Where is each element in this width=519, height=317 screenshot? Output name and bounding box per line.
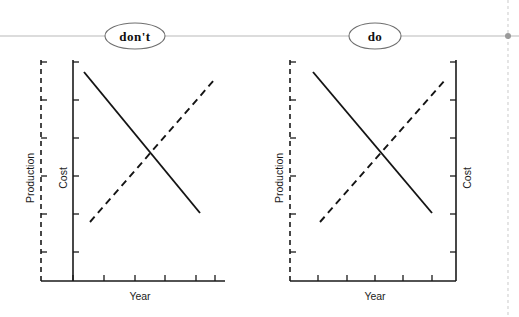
series-cost-series-dont-panel: [84, 72, 200, 213]
figure-canvas: don'tdoYearProductionCostYearProductionC…: [0, 0, 519, 317]
series-production-series-dont-panel: [90, 79, 215, 222]
yaxis-label-production: Production: [24, 153, 36, 203]
yaxis-cost-dont-panel: Cost: [57, 60, 79, 281]
yaxis-label-cost: Cost: [57, 167, 69, 189]
yaxis-label-cost: Cost: [461, 167, 473, 189]
xaxis-dont-panel: Year: [41, 275, 225, 302]
series-cost-series-do-panel: [313, 72, 432, 213]
yaxis-production-do-panel: Production: [273, 60, 296, 281]
yaxis-cost-do-panel: Cost: [450, 60, 473, 281]
yaxis-production-dont-panel: Production: [24, 60, 47, 281]
header-node-do[interactable]: do: [349, 23, 401, 49]
panel-do-panel: YearProductionCost: [273, 60, 473, 302]
xaxis-do-panel: Year: [290, 275, 456, 302]
header-node-dont[interactable]: don't: [105, 23, 165, 49]
xaxis-label: Year: [129, 290, 151, 302]
series-production-series-do-panel: [320, 79, 446, 222]
xaxis-label: Year: [364, 290, 386, 302]
panel-dont-panel: YearProductionCost: [24, 60, 225, 302]
right-guide-dot[interactable]: [505, 33, 511, 39]
node-label-dont: don't: [119, 29, 151, 44]
yaxis-label-production: Production: [273, 153, 285, 203]
figure-stage: don'tdoYearProductionCostYearProductionC…: [0, 0, 519, 317]
node-label-do: do: [368, 29, 383, 44]
